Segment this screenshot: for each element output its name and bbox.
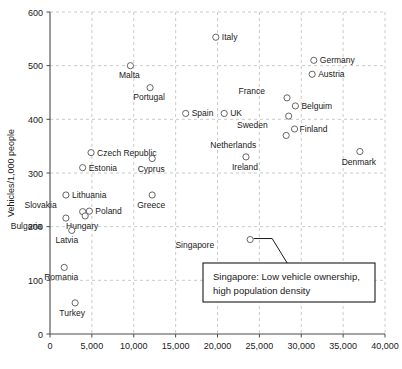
x-tick-label: 30,000 — [287, 341, 315, 351]
point-label: Malta — [119, 70, 140, 80]
point-marker — [183, 110, 189, 116]
point-marker — [63, 192, 69, 198]
x-tick-label: 40,000 — [371, 341, 399, 351]
point-label: Greece — [137, 200, 165, 210]
point-label: Spain — [192, 108, 214, 118]
callout-line-2: high population density — [213, 285, 310, 296]
callout-box — [203, 263, 375, 302]
point-label: Romania — [44, 272, 78, 282]
point-label: Portugal — [133, 92, 165, 102]
point-label: Singapore — [175, 240, 214, 250]
point-label: Ireland — [232, 162, 258, 172]
x-tick-label: 15,000 — [162, 341, 190, 351]
point-label: Cyprus — [138, 164, 165, 174]
point-label: Poland — [95, 206, 122, 216]
point-marker — [72, 300, 78, 306]
point-marker — [80, 165, 86, 171]
point-marker — [284, 95, 290, 101]
point-marker — [357, 148, 363, 154]
point-label: Latvia — [55, 235, 78, 245]
x-tick-label: 5,000 — [81, 341, 104, 351]
point-label: Belguim — [301, 101, 332, 111]
point-label: Austria — [318, 69, 345, 79]
point-label: Netherlands — [210, 140, 256, 150]
point-marker — [309, 71, 315, 77]
point-marker — [61, 264, 67, 270]
point-marker — [147, 85, 153, 91]
y-tick-label: 100 — [28, 276, 43, 286]
x-tick-label: 0 — [47, 341, 52, 351]
point-marker — [311, 57, 317, 63]
point-label: Bulgaria — [11, 221, 42, 231]
data-point: Czech Republic — [88, 148, 157, 158]
y-axis-title: Vehicles/1,000 people — [6, 129, 16, 217]
point-marker — [283, 132, 289, 138]
point-marker — [149, 155, 155, 161]
data-point: UK — [221, 108, 242, 118]
callout-line-1: Singapore: Low vehicle ownership, — [213, 271, 360, 282]
point-marker — [88, 150, 94, 156]
point-label: Estonia — [89, 163, 118, 173]
point-marker — [63, 215, 69, 221]
point-label: Lithuania — [72, 190, 107, 200]
point-label: Denmark — [342, 157, 377, 167]
point-marker — [127, 63, 133, 69]
point-label: Sweden — [237, 120, 268, 130]
y-tick-label: 500 — [28, 61, 43, 71]
y-tick-label: 600 — [28, 8, 43, 18]
y-axis-title-text: Vehicles/1,000 people — [6, 129, 16, 217]
point-marker — [82, 213, 88, 219]
x-tick-label: 25,000 — [246, 341, 274, 351]
y-tick-label: 400 — [28, 115, 43, 125]
point-label: Turkey — [59, 308, 85, 318]
point-marker — [213, 34, 219, 40]
point-marker — [286, 113, 292, 119]
point-marker — [149, 192, 155, 198]
point-marker — [247, 236, 253, 242]
point-marker — [69, 227, 75, 233]
point-marker — [221, 110, 227, 116]
x-tick-label: 20,000 — [204, 341, 232, 351]
point-label: Germany — [320, 55, 356, 65]
x-tick-label: 10,000 — [120, 341, 148, 351]
point-label: Czech Republic — [97, 148, 157, 158]
point-marker — [291, 126, 297, 132]
point-label: Slovakia — [25, 200, 57, 210]
point-label: Finland — [300, 124, 328, 134]
point-marker — [243, 154, 249, 160]
y-tick-label: 0 — [38, 330, 43, 340]
chart-canvas: 05,00010,00015,00020,00025,00030,00035,0… — [0, 0, 402, 369]
y-tick-label: 300 — [28, 169, 43, 179]
point-label: France — [239, 86, 266, 96]
point-label: Italy — [222, 32, 238, 42]
scatter-chart: 05,00010,00015,00020,00025,00030,00035,0… — [0, 0, 402, 369]
x-tick-label: 35,000 — [329, 341, 357, 351]
point-label: UK — [230, 108, 242, 118]
point-marker — [292, 103, 298, 109]
